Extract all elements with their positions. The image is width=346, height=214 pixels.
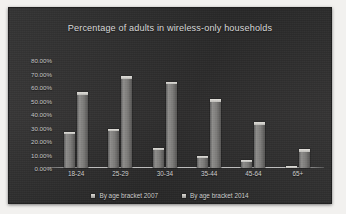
chart-figure: Percentage of adults in wireless-only ho… (0, 0, 346, 214)
legend-label: By age bracket 2014 (190, 192, 249, 199)
legend-swatch-icon (182, 194, 186, 198)
legend-label: By age bracket 2007 (99, 192, 158, 199)
bar-65plus-2014[interactable] (299, 149, 310, 168)
bar-group (187, 60, 231, 168)
bar-25-29-2007[interactable] (108, 129, 119, 168)
bar-group (276, 60, 320, 168)
bar-group (54, 60, 98, 168)
x-axis-tick-label: 30-34 (157, 170, 173, 177)
y-axis-tick-label: 40.00% (31, 111, 52, 118)
bar-group (98, 60, 142, 168)
y-axis-tick-label: 30.00% (31, 124, 52, 131)
x-axis-tick-label: 18-24 (68, 170, 84, 177)
y-axis-tick-label: 60.00% (31, 84, 52, 91)
bar-30-34-2007[interactable] (153, 148, 164, 168)
x-axis-tick-label: 35-44 (201, 170, 217, 177)
y-axis-tick-label: 20.00% (31, 138, 52, 145)
bar-35-44-2007[interactable] (197, 156, 208, 168)
bar-45-64-2007[interactable] (241, 160, 252, 168)
y-axis-tick-label: 50.00% (31, 97, 52, 104)
x-axis-tick-label: 45-64 (245, 170, 261, 177)
x-axis-tick-label: 65+ (292, 170, 303, 177)
bar-45-64-2014[interactable] (254, 122, 265, 168)
bar-18-24-2007[interactable] (64, 132, 75, 168)
bar-group (143, 60, 187, 168)
x-axis-tick-label: 25-29 (112, 170, 128, 177)
y-axis-tick-label: 70.00% (31, 70, 52, 77)
legend-item-2007[interactable]: By age bracket 2007 (91, 192, 158, 199)
bar-65plus-2007[interactable] (286, 166, 297, 168)
chart-legend: By age bracket 2007By age bracket 2014 (8, 192, 332, 199)
y-axis: 80.00%70.00%60.00%50.00%40.00%30.00%20.0… (8, 60, 52, 168)
chart-title: Percentage of adults in wireless-only ho… (8, 23, 332, 33)
bar-25-29-2014[interactable] (121, 76, 132, 168)
bar-18-24-2014[interactable] (77, 92, 88, 168)
bar-30-34-2014[interactable] (166, 82, 177, 168)
plot-area (54, 60, 320, 168)
legend-swatch-icon (91, 194, 95, 198)
chart-panel: Percentage of adults in wireless-only ho… (8, 7, 332, 204)
bar-group (231, 60, 275, 168)
y-axis-tick-label: 10.00% (31, 151, 52, 158)
y-axis-tick-label: 80.00% (31, 57, 52, 64)
legend-item-2014[interactable]: By age bracket 2014 (182, 192, 249, 199)
bar-35-44-2014[interactable] (210, 99, 221, 168)
